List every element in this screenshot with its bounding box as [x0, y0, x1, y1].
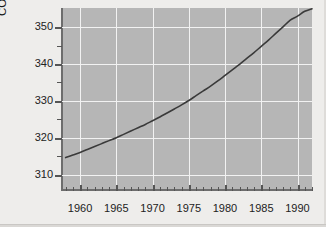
x-tick-label: 1970 — [133, 202, 173, 214]
y-tick-major — [55, 27, 62, 29]
y-tick-label: 310 — [23, 169, 53, 180]
co2-line-path — [66, 9, 312, 158]
data-series-curve — [62, 8, 312, 190]
x-tick-label: 1990 — [278, 202, 318, 214]
y-tick-major — [55, 64, 62, 66]
x-tick-label: 1975 — [169, 202, 209, 214]
figure-panel: CO2 concentration (ppm) 310320330340350 … — [0, 0, 326, 227]
x-tick-label: 1980 — [205, 202, 245, 214]
x-tick-label: 1965 — [96, 202, 136, 214]
y-tick-major — [55, 101, 62, 103]
y-tick-major — [55, 138, 62, 140]
y-axis-title-prefix: CO — [0, 0, 8, 16]
x-tick-label: 1985 — [241, 202, 281, 214]
y-tick-label: 330 — [23, 95, 53, 106]
y-tick-label: 350 — [23, 21, 53, 32]
y-tick-major — [55, 175, 62, 177]
y-tick-label: 340 — [23, 58, 53, 69]
figure-bottom-border — [0, 225, 326, 227]
plot-area: 310320330340350 196019651970197519801985… — [62, 8, 312, 190]
y-axis-title: CO2 concentration (ppm) — [0, 0, 10, 16]
x-tick-minor — [312, 187, 313, 191]
y-tick-label: 320 — [23, 132, 53, 143]
x-tick-label: 1960 — [60, 202, 100, 214]
